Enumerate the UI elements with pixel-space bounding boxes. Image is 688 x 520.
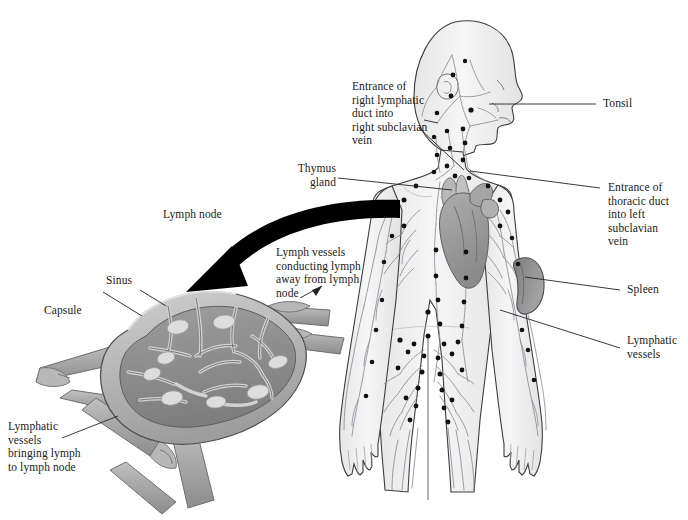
lymph-node-detail [36, 292, 344, 514]
label-afferent-vessels: Lymphatic vessels bringing lymph to lymp… [8, 420, 100, 474]
label-efferent-vessels: Lymph vessels conducting lymph away from… [276, 246, 386, 300]
leader-capsule [103, 292, 142, 316]
label-sinus: Sinus [106, 274, 132, 288]
label-thoracic-duct: Entrance of thoracic duct into left subc… [608, 181, 684, 249]
label-lymphatic-vessels: Lymphatic vessels [627, 334, 687, 361]
label-thymus-gland: Thymus gland [268, 162, 336, 189]
label-tonsil: Tonsil [603, 97, 632, 111]
leader-sinus [140, 290, 166, 306]
label-spleen: Spleen [627, 283, 659, 297]
label-capsule: Capsule [44, 304, 82, 318]
label-lymph-node: Lymph node [163, 208, 222, 222]
label-right-lymphatic-duct: Entrance of right lymphatic duct into ri… [352, 80, 448, 148]
lymphatic-system-figure: Entrance of right lymphatic duct into ri… [0, 0, 688, 520]
